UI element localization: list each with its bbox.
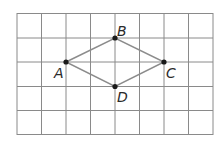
label-b: B <box>117 23 127 39</box>
point-a <box>63 59 68 64</box>
label-a: A <box>53 65 64 81</box>
grid-diagram: A B C D <box>0 0 223 144</box>
grid <box>17 14 213 135</box>
label-c: C <box>166 65 176 81</box>
label-d: D <box>117 89 128 105</box>
point-c <box>161 59 166 64</box>
